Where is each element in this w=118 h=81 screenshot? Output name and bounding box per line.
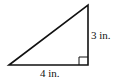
triangle-diagram: 3 in. 4 in.: [0, 0, 118, 81]
right-angle-marker: [79, 57, 88, 65]
right-triangle: [9, 5, 88, 65]
horizontal-leg-label: 4 in.: [40, 67, 60, 79]
vertical-leg-label: 3 in.: [91, 29, 111, 41]
